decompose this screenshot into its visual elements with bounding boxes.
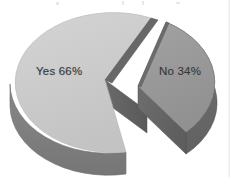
scan-artifact-right-edge	[228, 0, 230, 177]
scan-artifact-top	[0, 0, 230, 7]
pie-label-yes: Yes 66%	[36, 65, 82, 77]
pie-chart-figure: Yes 66% No 34%	[0, 0, 230, 177]
pie-label-no: No 34%	[159, 65, 201, 77]
pie-slice-no	[138, 22, 217, 154]
pie-slice-yes	[10, 13, 158, 176]
pie-chart-graphic	[0, 0, 230, 177]
